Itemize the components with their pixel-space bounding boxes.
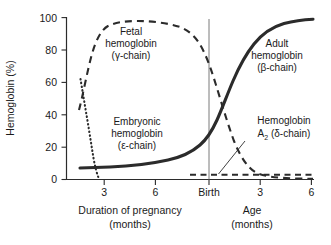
label-fetal-line3: (γ-chain) [112,50,151,61]
label-fetal-line2: hemoglobin [105,38,157,49]
x-tick-label-6-pregnancy: 6 [152,186,158,198]
y-axis-title: Hemoglobin (%) [4,60,16,135]
label-embryonic-line1: Embryonic [113,116,160,127]
label-a2-suffix: (δ-chain) [268,128,310,139]
y-tick-label-60: 60 [45,76,57,88]
curve-embryonic-hemoglobin [81,79,100,179]
x-group-title-pregnancy-line1: Duration of pregnancy [78,204,182,216]
y-tick-label-100: 100 [39,12,57,24]
y-tick-label-40: 40 [45,109,57,121]
x-group-title-age-line2: (months) [231,218,272,230]
label-a2-line1: Hemoglobin [257,115,310,126]
label-adult-line3: (β-chain) [257,62,297,73]
label-embryonic-line3: (ε-chain) [118,140,156,151]
label-embryonic-hemoglobin: Embryonic hemoglobin (ε-chain) [111,116,163,151]
label-a2-line2: A2 (δ-chain) [258,128,311,141]
chart-figure: 100 80 60 40 20 0 Hemoglobin (%) 3 6 Bir… [0,0,331,245]
y-tick-label-20: 20 [45,141,57,153]
label-adult-line2: hemoglobin [251,50,303,61]
label-adult-line1: Adult [266,38,289,49]
y-tick-label-80: 80 [45,44,57,56]
x-axis-ticks [104,180,311,186]
a2-leader-line [219,141,246,174]
y-axis-ticks [62,18,67,180]
label-fetal-hemoglobin: Fetal hemoglobin (γ-chain) [105,26,157,61]
y-tick-label-0: 0 [51,173,57,185]
x-tick-label-6-age: 6 [308,186,314,198]
x-group-title-pregnancy-line2: (months) [109,218,150,230]
x-tick-label-3-pregnancy: 3 [101,186,107,198]
label-embryonic-line2: hemoglobin [111,128,163,139]
hemoglobin-development-chart: 100 80 60 40 20 0 Hemoglobin (%) 3 6 Bir… [0,0,331,245]
x-group-title-age-line1: Age [243,204,262,216]
x-tick-label-birth: Birth [198,186,220,198]
label-adult-hemoglobin: Adult hemoglobin (β-chain) [251,38,303,73]
x-tick-label-3-age: 3 [257,186,263,198]
label-hemoglobin-a2: Hemoglobin A2 (δ-chain) [257,115,310,141]
label-fetal-line1: Fetal [120,26,142,37]
